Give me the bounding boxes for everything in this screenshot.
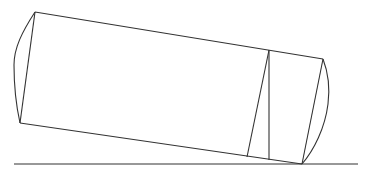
cylinder-diagram [0,0,365,177]
cylinder-top-edge [35,12,323,59]
left-cap-chord [20,12,35,123]
cylinder-bottom-edge [20,123,302,164]
left-cap-arc [14,12,35,123]
inner-slanted-line [247,50,269,157]
right-cap-arc [302,59,329,164]
